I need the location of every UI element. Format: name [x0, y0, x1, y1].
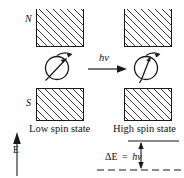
energy-gap-arrow [138, 142, 143, 169]
high-spin-particle [135, 53, 161, 83]
photon-transition-arrow [88, 65, 127, 73]
figure-vector-overlay [0, 0, 184, 178]
energy-axis-arrow [13, 132, 21, 176]
spin-state-transition-figure: N S hν Low spin state High spin state E … [0, 0, 184, 178]
low-spin-particle [46, 53, 73, 81]
